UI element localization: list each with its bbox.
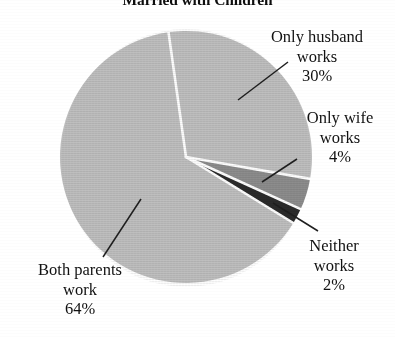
slice-label-neither-works: Neither works 2% (278, 236, 390, 295)
label-line-2: work (4, 280, 156, 300)
label-line-1: Neither (278, 236, 390, 256)
label-value: 4% (288, 147, 392, 167)
label-line-2: works (288, 128, 392, 148)
label-line-2: works (278, 256, 390, 276)
label-line-1: Only wife (288, 108, 392, 128)
label-line-2: works (243, 47, 391, 67)
slice-label-only-husband-works: Only husband works 30% (243, 27, 391, 86)
slice-label-both-parents-work: Both parents work 64% (4, 260, 156, 319)
label-line-1: Both parents (4, 260, 156, 280)
label-value: 64% (4, 299, 156, 319)
slice-label-only-wife-works: Only wife works 4% (288, 108, 392, 167)
label-line-1: Only husband (243, 27, 391, 47)
chart-figure: Married with Children (0, 0, 395, 337)
label-value: 30% (243, 66, 391, 86)
label-value: 2% (278, 275, 390, 295)
